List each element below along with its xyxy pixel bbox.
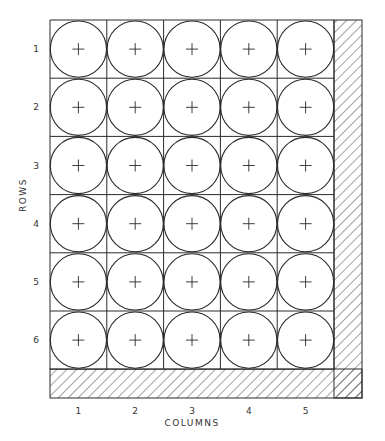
well-cell: [221, 137, 277, 193]
plus-icon: [129, 101, 141, 113]
plus-icon: [300, 160, 312, 172]
well-cell: [278, 254, 334, 310]
column-label: 3: [189, 406, 195, 416]
plus-icon: [300, 334, 312, 346]
well-cell: [164, 254, 220, 310]
plus-icon: [243, 218, 255, 230]
column-label: 5: [303, 406, 309, 416]
well-cell: [50, 21, 106, 77]
well-cell: [50, 254, 106, 310]
plus-icon: [129, 276, 141, 288]
well-cell: [107, 79, 163, 135]
well-cell: [50, 137, 106, 193]
plus-icon: [129, 218, 141, 230]
plus-icon: [243, 43, 255, 55]
plus-icon: [243, 160, 255, 172]
well-cell: [278, 137, 334, 193]
well-cell: [107, 196, 163, 252]
row-label: 1: [33, 44, 39, 54]
well-cell: [50, 79, 106, 135]
plus-icon: [300, 218, 312, 230]
rows-axis-label: ROWS: [18, 178, 28, 212]
row-label: 6: [33, 335, 39, 345]
plus-icon: [72, 218, 84, 230]
plus-icon: [72, 160, 84, 172]
well-cell: [107, 21, 163, 77]
row-label: 3: [33, 161, 39, 171]
plus-icon: [186, 218, 198, 230]
plus-icon: [186, 101, 198, 113]
column-label: 4: [246, 406, 252, 416]
columns-axis-label: COLUMNS: [164, 418, 219, 428]
well-cell: [164, 79, 220, 135]
row-labels: 123456: [33, 44, 39, 345]
well-cell: [164, 312, 220, 368]
plus-icon: [72, 276, 84, 288]
well-cell: [50, 196, 106, 252]
plus-icon: [129, 334, 141, 346]
plus-icon: [72, 334, 84, 346]
plus-icon: [129, 160, 141, 172]
plus-icon: [243, 334, 255, 346]
well-cell: [278, 196, 334, 252]
plus-icon: [300, 43, 312, 55]
well-cell: [221, 312, 277, 368]
well-grid-diagram: 123456 12345 ROWS COLUMNS: [0, 0, 385, 441]
well-cell: [164, 21, 220, 77]
row-label: 2: [33, 102, 39, 112]
well-cell: [50, 312, 106, 368]
well-cell: [164, 196, 220, 252]
column-label: 1: [76, 406, 82, 416]
well-cell: [107, 254, 163, 310]
well-cell: [107, 312, 163, 368]
plus-icon: [72, 101, 84, 113]
plus-icon: [300, 276, 312, 288]
well-cell: [221, 196, 277, 252]
well-cell: [221, 21, 277, 77]
row-label: 5: [33, 277, 39, 287]
well-cell: [107, 137, 163, 193]
well-cell: [221, 79, 277, 135]
plus-icon: [186, 43, 198, 55]
column-label: 2: [132, 406, 138, 416]
well-cell: [278, 312, 334, 368]
plus-icon: [243, 276, 255, 288]
well-cell: [164, 137, 220, 193]
plus-icon: [186, 276, 198, 288]
well-cell: [221, 254, 277, 310]
plus-icon: [186, 334, 198, 346]
plus-icon: [72, 43, 84, 55]
hatched-border: [50, 20, 362, 398]
plus-icon: [300, 101, 312, 113]
row-label: 4: [33, 219, 39, 229]
grid: [50, 20, 334, 369]
plus-icon: [129, 43, 141, 55]
plus-icon: [243, 101, 255, 113]
column-labels: 12345: [76, 406, 309, 416]
well-cell: [278, 79, 334, 135]
plus-icon: [186, 160, 198, 172]
well-cell: [278, 21, 334, 77]
